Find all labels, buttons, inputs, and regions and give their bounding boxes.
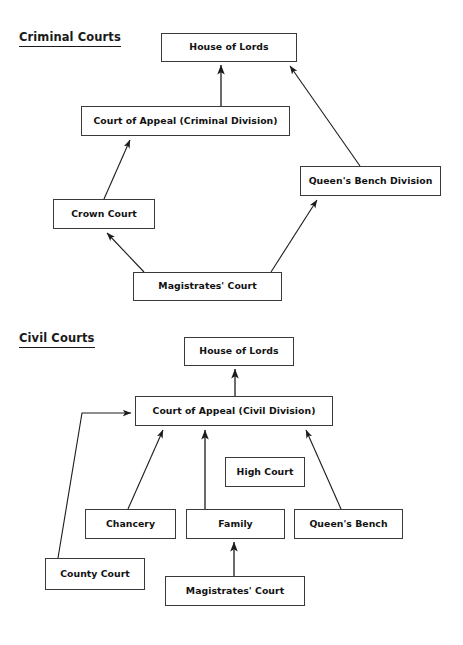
node-county-court[interactable]: County Court <box>45 558 145 590</box>
edge-queens-bench-to-court-of-appeal-civil <box>306 430 341 509</box>
node-chancery[interactable]: Chancery <box>85 509 176 539</box>
edge-crown-court-to-court-of-appeal-criminal <box>104 140 130 199</box>
court-structure-diagram: Criminal Courts Civil Courts House of Lo… <box>0 0 463 645</box>
node-court-of-appeal-civil-division[interactable]: Court of Appeal (Civil Division) <box>135 396 333 426</box>
node-magistrates-court-criminal[interactable]: Magistrates' Court <box>133 272 282 301</box>
arrow-edges-layer <box>0 0 463 645</box>
node-magistrates-court-civil[interactable]: Magistrates' Court <box>165 576 305 606</box>
node-family[interactable]: Family <box>186 509 285 539</box>
edge-magistrates-court-to-queens-bench-division-criminal <box>271 200 317 272</box>
node-crown-court[interactable]: Crown Court <box>53 199 155 229</box>
edge-chancery-to-court-of-appeal-civil <box>128 430 163 509</box>
edge-queens-bench-division-to-house-of-lords-criminal <box>290 66 360 166</box>
node-house-of-lords-criminal[interactable]: House of Lords <box>161 33 297 62</box>
node-house-of-lords-civil[interactable]: House of Lords <box>184 337 294 366</box>
footer-caption <box>22 634 442 645</box>
section-heading-criminal-courts: Criminal Courts <box>19 30 121 47</box>
node-queens-bench-division-criminal[interactable]: Queen's Bench Division <box>300 166 441 196</box>
node-court-of-appeal-criminal-division[interactable]: Court of Appeal (Criminal Division) <box>81 106 290 136</box>
node-high-court[interactable]: High Court <box>225 457 305 487</box>
edge-magistrates-court-to-crown-court-criminal <box>107 233 144 272</box>
section-heading-civil-courts: Civil Courts <box>19 331 95 348</box>
node-queens-bench-civil[interactable]: Queen's Bench <box>294 509 403 539</box>
